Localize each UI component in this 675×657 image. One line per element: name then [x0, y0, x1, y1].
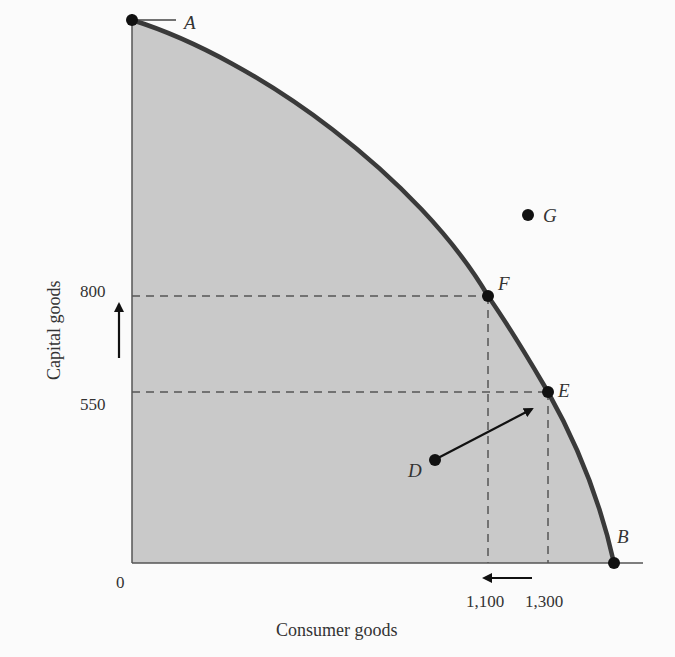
point-b [608, 557, 620, 569]
label-f: F [497, 273, 510, 294]
tick-origin: 0 [116, 573, 125, 592]
point-f [482, 290, 494, 302]
tick-y-550: 550 [80, 395, 106, 414]
point-d [429, 454, 441, 466]
tick-x-1300: 1,300 [525, 592, 563, 611]
x-axis-title: Consumer goods [276, 620, 398, 640]
point-a [126, 14, 138, 26]
label-b: B [617, 526, 629, 547]
label-g: G [543, 205, 557, 226]
tick-x-1100: 1,100 [466, 592, 504, 611]
label-a: A [182, 12, 196, 33]
point-g [522, 209, 534, 221]
tick-y-800: 800 [80, 282, 106, 301]
ppf-chart: A F E B D G 800 550 0 1,100 1,300 Consum… [0, 0, 675, 657]
feasible-region [132, 20, 614, 563]
label-e: E [557, 380, 570, 401]
point-e [542, 386, 554, 398]
y-axis-title: Capital goods [44, 281, 64, 381]
label-d: D [407, 460, 422, 481]
